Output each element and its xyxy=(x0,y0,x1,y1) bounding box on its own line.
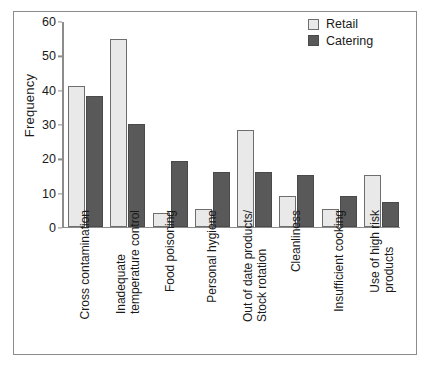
y-axis-tick-label: 50 xyxy=(42,50,56,63)
y-axis-tick-mark xyxy=(58,227,62,228)
y-axis-tick-mark xyxy=(58,90,62,91)
y-axis-tick-mark xyxy=(58,159,62,160)
legend: Retail Catering xyxy=(308,18,373,51)
x-axis-label-line: Food poisoning xyxy=(164,210,178,292)
x-axis-label: Insufficient cooking xyxy=(333,210,347,312)
plot-area: 0102030405060 xyxy=(62,22,400,228)
x-axis-label-holder: Food poisoning xyxy=(151,210,191,340)
bar-group xyxy=(153,21,189,227)
x-axis-label-line: Cleanliness xyxy=(291,210,305,272)
bar-group xyxy=(195,21,231,227)
y-axis-tick-mark xyxy=(58,124,62,125)
bar-retail xyxy=(110,39,127,226)
bar-group xyxy=(110,21,146,227)
legend-swatch-retail-icon xyxy=(308,19,319,30)
legend-label-catering: Catering xyxy=(326,35,373,48)
x-axis-label-holder: Use of high riskproducts xyxy=(362,210,402,340)
legend-item-catering: Catering xyxy=(308,35,373,48)
legend-label-retail: Retail xyxy=(326,18,358,31)
x-axis-label: Out of date products/Stock rotation xyxy=(242,210,269,322)
x-axis-label-line: Personal hygiene xyxy=(206,210,220,303)
legend-item-retail: Retail xyxy=(308,18,373,31)
y-axis-line xyxy=(62,22,64,228)
x-axis-label: Cleanliness xyxy=(291,210,305,272)
x-axis-label-line: Use of high risk xyxy=(368,210,382,293)
bar-group xyxy=(237,21,273,227)
y-axis-tick-label: 20 xyxy=(42,153,56,166)
y-axis-tick-mark xyxy=(58,21,62,22)
y-axis-tick-label: 30 xyxy=(42,119,56,132)
x-axis-label: Food poisoning xyxy=(164,210,178,292)
y-axis-tick-label: 10 xyxy=(42,187,56,200)
bar-catering xyxy=(86,96,103,226)
legend-swatch-catering-icon xyxy=(308,35,319,46)
x-axis-label-holder: Cross contamination xyxy=(66,210,106,340)
x-axis-label-holder: Inadequatetemperature control xyxy=(108,210,148,340)
y-axis-tick-label: 0 xyxy=(49,222,56,235)
x-axis-label-line: Cross contamination xyxy=(79,210,93,319)
bar-group xyxy=(68,21,104,227)
x-axis-label: Personal hygiene xyxy=(206,210,220,303)
bar-group xyxy=(364,21,400,227)
x-axis-label-line: Out of date products/ xyxy=(242,210,256,322)
bar-retail xyxy=(68,86,85,227)
bar-group xyxy=(279,21,315,227)
y-axis-title: Frequency xyxy=(22,41,37,171)
x-axis-label-line: Insufficient cooking xyxy=(333,210,347,312)
x-axis-label-line: Stock rotation xyxy=(255,210,269,322)
x-axis-label: Cross contamination xyxy=(79,210,93,319)
x-axis-label-line: Inadequate xyxy=(115,210,129,314)
y-axis-tick-mark xyxy=(58,56,62,57)
y-axis-tick-label: 60 xyxy=(42,16,56,29)
x-axis-label-holder: Cleanliness xyxy=(277,210,317,340)
y-axis-tick-label: 40 xyxy=(42,84,56,97)
x-axis-label-line: temperature control xyxy=(128,210,142,314)
x-axis-label-holder: Personal hygiene xyxy=(193,210,233,340)
y-axis-tick-mark xyxy=(58,193,62,194)
x-axis-label: Inadequatetemperature control xyxy=(115,210,142,314)
x-axis-label-holder: Out of date products/Stock rotation xyxy=(235,210,275,340)
bar-group xyxy=(322,21,358,227)
x-axis-label: Use of high riskproducts xyxy=(368,210,395,293)
x-axis-label-line: products xyxy=(382,210,396,293)
figure: Frequency 0102030405060 Cross contaminat… xyxy=(0,0,429,374)
x-axis-label-holder: Insufficient cooking xyxy=(320,210,360,340)
